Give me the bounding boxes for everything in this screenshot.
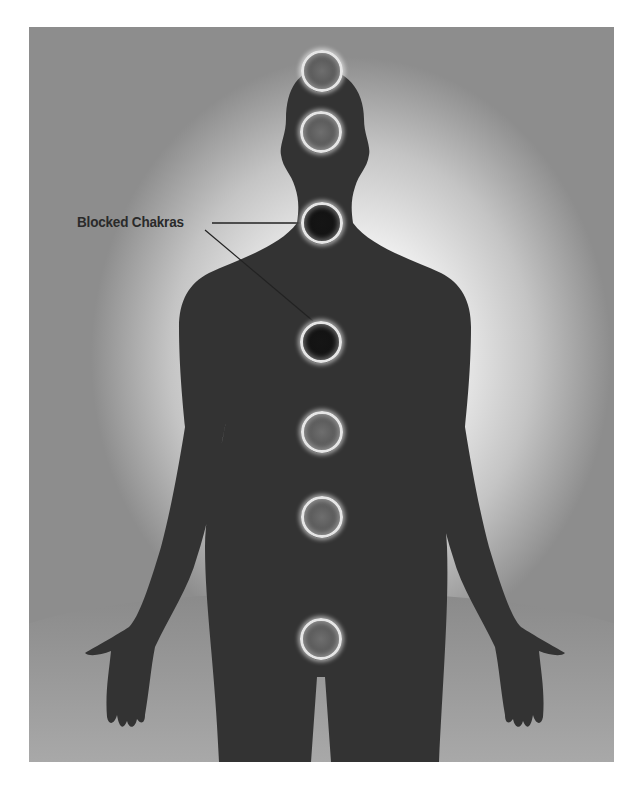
chakra-root <box>300 618 342 660</box>
chakra-crown <box>301 50 343 92</box>
chakra-heart-blocked <box>300 321 342 363</box>
blocked-chakras-label: Blocked Chakras <box>77 213 184 230</box>
chakra-solar-plexus <box>301 411 343 453</box>
chakra-illustration: Blocked Chakras <box>29 27 614 762</box>
chakra-sacral <box>301 496 343 538</box>
chakra-throat-blocked <box>301 202 343 244</box>
chakra-third-eye <box>300 111 342 153</box>
